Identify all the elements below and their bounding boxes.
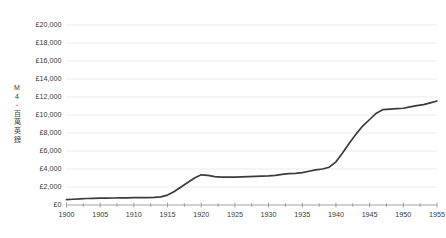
y-tick-label: £8,000 <box>40 128 62 137</box>
x-tick-labels-group: 1900190519101915192019251930193519401945… <box>59 210 446 219</box>
chart-container: M 4 - 百 萬 英 鎊 £0£2,000£4,000£6,000£8,000… <box>0 0 446 238</box>
x-tick-label: 1910 <box>126 210 142 219</box>
y-tick-label: £14,000 <box>36 74 62 83</box>
data-series-national-debt <box>67 101 438 200</box>
line-chart: £0£2,000£4,000£6,000£8,000£10,000£12,000… <box>0 0 446 238</box>
y-tick-label: £10,000 <box>36 110 62 119</box>
y-tick-label: £4,000 <box>40 164 62 173</box>
y-tick-labels-group: £0£2,000£4,000£6,000£8,000£10,000£12,000… <box>36 20 62 209</box>
x-tick-label: 1915 <box>160 210 176 219</box>
y-tick-label: £0 <box>54 200 62 209</box>
gridlines-group <box>67 25 438 187</box>
y-tick-label: £20,000 <box>36 20 62 29</box>
x-tick-label: 1920 <box>193 210 209 219</box>
x-tick-label: 1955 <box>429 210 445 219</box>
y-tick-label: £6,000 <box>40 146 62 155</box>
x-tick-label: 1930 <box>261 210 277 219</box>
x-tick-label: 1905 <box>92 210 108 219</box>
x-tick-label: 1900 <box>59 210 75 219</box>
y-tick-label: £18,000 <box>36 38 62 47</box>
y-tick-label: £12,000 <box>36 92 62 101</box>
x-tick-label: 1935 <box>294 210 310 219</box>
x-tick-label: 1945 <box>362 210 378 219</box>
x-tick-label: 1940 <box>328 210 344 219</box>
x-tick-label: 1950 <box>395 210 411 219</box>
x-tick-label: 1925 <box>227 210 243 219</box>
y-tick-label: £16,000 <box>36 56 62 65</box>
y-tick-label: £2,000 <box>40 182 62 191</box>
